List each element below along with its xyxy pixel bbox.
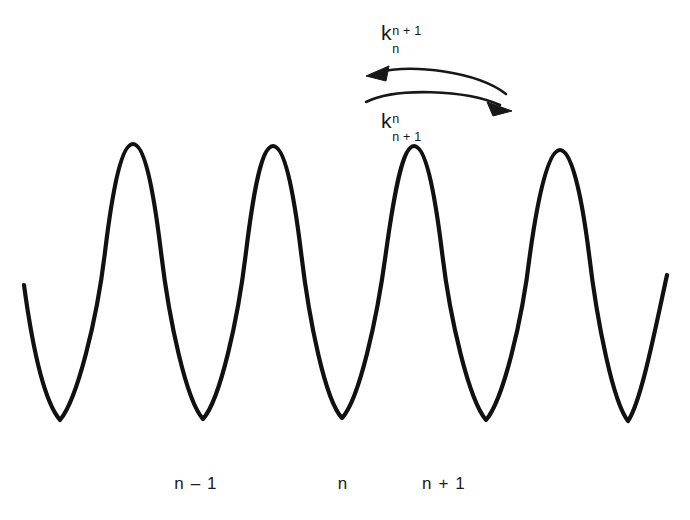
site-label-n-plus-1: n + 1	[422, 474, 466, 494]
rate-constant-backward-superscript: n	[392, 113, 399, 126]
rate-constant-forward-superscript: n + 1	[392, 25, 421, 38]
rate-constant-forward-label: kn + 1n	[381, 22, 421, 56]
rate-constant-backward-symbol: k	[381, 109, 392, 132]
potential-energy-diagram	[0, 0, 690, 520]
rate-constant-forward-scripts: n + 1n	[392, 29, 421, 55]
site-label-n: n	[338, 474, 349, 494]
rate-arrow-forward	[366, 66, 506, 94]
rate-constant-forward-subscript: n	[392, 43, 399, 56]
site-label-n-minus-1: n – 1	[174, 474, 217, 494]
potential-energy-curve	[24, 144, 667, 421]
rate-arrow-forward-arc	[376, 69, 506, 94]
rate-constant-backward-scripts: nn + 1	[392, 117, 421, 143]
rate-constant-forward-symbol: k	[381, 21, 392, 44]
rate-constant-backward-subscript: n + 1	[392, 131, 421, 144]
figure-canvas: kn + 1n knn + 1 n – 1 n n + 1	[0, 0, 690, 520]
rate-constant-backward-label: knn + 1	[381, 110, 421, 144]
rate-arrow-backward-arc	[366, 92, 500, 105]
rate-arrow-forward-head	[366, 66, 389, 81]
